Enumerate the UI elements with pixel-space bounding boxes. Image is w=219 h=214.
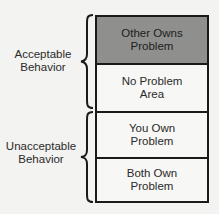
curly-brace-icon	[80, 14, 94, 109]
cell-line1: No Problem	[122, 75, 183, 88]
cell-line2: Problem	[121, 40, 182, 53]
cell-other-owns-problem: Other Owns Problem	[97, 17, 207, 63]
cell-you-own-problem: You Own Problem	[97, 111, 207, 157]
cell-line2: Area	[122, 88, 183, 101]
group-label-unacceptable: Unacceptable Behavior	[2, 140, 80, 166]
group-label-line1: Acceptable	[8, 48, 78, 61]
behavior-stack: Other Owns Problem No Problem Area You O…	[95, 15, 209, 203]
group-label-line2: Behavior	[2, 153, 80, 166]
cell-line1: Both Own	[127, 167, 178, 180]
cell-line2: Problem	[127, 180, 178, 193]
cell-line2: Problem	[129, 135, 175, 148]
cell-both-own-problem: Both Own Problem	[97, 157, 207, 201]
cell-line1: You Own	[129, 122, 175, 135]
cell-no-problem-area: No Problem Area	[97, 63, 207, 111]
group-label-line1: Unacceptable	[2, 140, 80, 153]
group-label-line2: Behavior	[8, 61, 78, 74]
cell-line1: Other Owns	[121, 27, 182, 40]
curly-brace-icon	[80, 111, 94, 203]
group-label-acceptable: Acceptable Behavior	[8, 48, 78, 74]
